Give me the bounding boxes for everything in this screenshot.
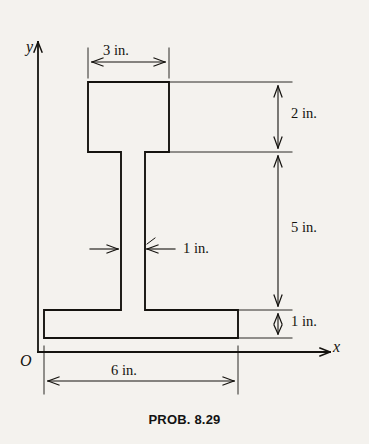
- dim-arrow-6in-right-b: [223, 381, 234, 385]
- i-beam-outline: [44, 82, 238, 338]
- dim-arrow-6in-right-a: [223, 377, 234, 381]
- dim-label-6in: 6 in.: [111, 362, 137, 379]
- leader-arrow-web-left-b: [107, 249, 118, 253]
- dim-arrow-6in-left-a: [48, 377, 59, 381]
- dim-arrow-5in-top-a: [274, 156, 278, 167]
- leader-tick-web: [147, 238, 155, 244]
- figure-caption: PROB. 8.29: [0, 412, 369, 427]
- x-axis-label: x: [333, 338, 340, 356]
- leader-arrow-web-right-b: [147, 249, 158, 253]
- dim-arrow-3in-left-a: [92, 58, 103, 62]
- dim-arrow-3in-left-b: [92, 62, 103, 66]
- dim-label-1in-web: 1 in.: [183, 240, 209, 257]
- dim-arrow-2in-top-b: [278, 86, 282, 97]
- leader-arrow-web-right-a: [147, 245, 158, 249]
- dim-arrow-1in-depth-top-a: [274, 314, 278, 324]
- figure-container: y x O 3 in. 2 in. 5 in. 1 in. 1 in. 6 in…: [0, 0, 369, 444]
- dim-label-3in: 3 in.: [103, 42, 129, 59]
- dim-arrow-3in-right-b: [154, 62, 165, 66]
- dim-arrow-5in-bot-a: [274, 295, 278, 306]
- dim-arrow-2in-bot-b: [278, 137, 282, 148]
- dim-arrow-1in-depth-bot-b: [278, 325, 282, 334]
- origin-label: O: [20, 352, 32, 370]
- dim-arrow-5in-top-b: [278, 156, 282, 167]
- dim-arrow-2in-top-a: [274, 86, 278, 97]
- dim-arrow-5in-bot-b: [278, 295, 282, 306]
- y-axis-label: y: [26, 38, 33, 56]
- dim-arrow-3in-right-a: [154, 58, 165, 62]
- dim-arrow-2in-bot-a: [274, 137, 278, 148]
- dim-arrow-6in-left-b: [48, 381, 59, 385]
- dim-label-2in: 2 in.: [291, 105, 317, 122]
- dim-arrow-1in-depth-top-b: [278, 314, 282, 324]
- dim-arrow-1in-depth-bot-a: [274, 325, 278, 334]
- dim-label-1in-depth: 1 in.: [291, 313, 317, 330]
- dim-label-5in: 5 in.: [291, 219, 317, 236]
- leader-arrow-web-left-a: [107, 245, 118, 249]
